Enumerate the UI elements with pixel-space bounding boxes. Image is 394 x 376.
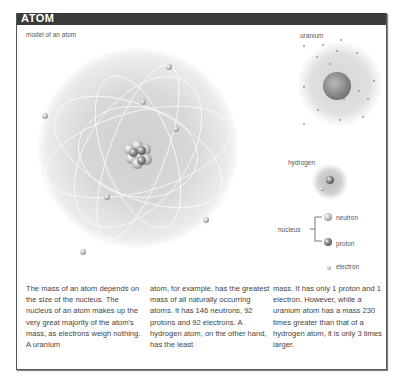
neutron-icon — [324, 213, 332, 221]
proton-label: proton — [336, 240, 354, 247]
electron-label: electron — [336, 263, 359, 270]
electron-icon — [327, 266, 331, 270]
body-text-column-2: atom, for example, has the greatest mass… — [150, 283, 270, 350]
body-text-column-3: mass. It has only 1 proton and 1 electro… — [273, 283, 383, 350]
proton-icon — [324, 238, 332, 246]
neutron-label: neutron — [336, 214, 358, 221]
nucleus-label: nucleus — [278, 226, 300, 233]
body-text-column-1: The mass of an atom depends on the size … — [26, 283, 146, 350]
